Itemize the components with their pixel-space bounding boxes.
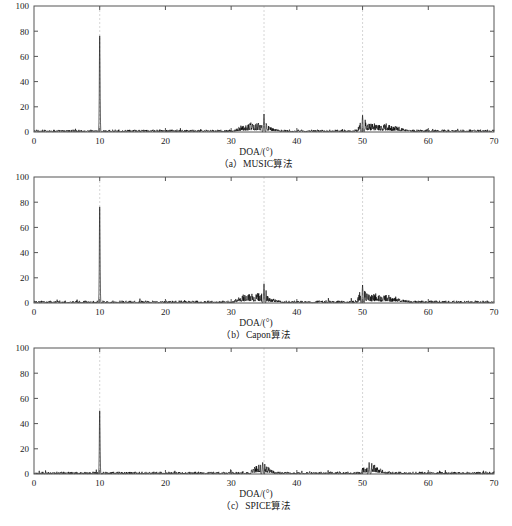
axes-frame [34, 348, 494, 474]
y-tick-label: 60 [20, 223, 30, 233]
y-tick-label: 80 [20, 27, 30, 37]
y-tick-label: 100 [16, 343, 30, 353]
x-tick-label: 10 [95, 478, 105, 488]
x-tick-label: 0 [32, 307, 37, 317]
panel-c-caption: （c）SPICE算法 [0, 500, 512, 513]
y-tick-label: 40 [20, 419, 30, 429]
y-tick-label: 100 [16, 1, 30, 11]
x-tick-label: 20 [161, 307, 171, 317]
panel-a-plot: 010203040506070020406080100 [0, 0, 512, 148]
panel-c-svg: 010203040506070020406080100 [0, 342, 512, 490]
x-tick-label: 70 [490, 478, 500, 488]
x-tick-label: 0 [32, 136, 37, 146]
y-tick-label: 60 [20, 52, 30, 62]
y-tick-label: 0 [25, 298, 30, 308]
x-tick-label: 30 [227, 307, 237, 317]
y-tick-label: 20 [20, 102, 30, 112]
y-tick-label: 40 [20, 248, 30, 258]
panel-a-caption: （a）MUSIC算法 [0, 158, 512, 171]
y-tick-label: 0 [25, 127, 30, 137]
y-tick-label: 80 [20, 198, 30, 208]
figure-page: 010203040506070020406080100 DOA/(°) （a）M… [0, 0, 512, 526]
x-tick-label: 40 [292, 478, 302, 488]
panel-b-caption: （b）Capon算法 [0, 329, 512, 342]
x-tick-label: 50 [358, 136, 368, 146]
y-tick-label: 60 [20, 394, 30, 404]
x-tick-label: 30 [227, 136, 237, 146]
panel-b-svg: 010203040506070020406080100 [0, 171, 512, 319]
y-tick-label: 0 [25, 469, 30, 479]
y-tick-label: 100 [16, 172, 30, 182]
x-tick-label: 70 [490, 307, 500, 317]
x-tick-label: 0 [32, 478, 37, 488]
axes-frame [34, 6, 494, 132]
panel-a-svg: 010203040506070020406080100 [0, 0, 512, 148]
panel-b: 010203040506070020406080100 DOA/(°) （b）C… [0, 171, 512, 342]
y-tick-label: 20 [20, 273, 30, 283]
panel-c: 010203040506070020406080100 DOA/(°) （c）S… [0, 342, 512, 513]
x-tick-label: 30 [227, 478, 237, 488]
y-tick-label: 20 [20, 444, 30, 454]
x-tick-label: 10 [95, 307, 105, 317]
x-tick-label: 60 [424, 307, 434, 317]
y-tick-label: 80 [20, 369, 30, 379]
x-tick-label: 40 [292, 307, 302, 317]
x-tick-label: 50 [358, 478, 368, 488]
x-tick-label: 20 [161, 478, 171, 488]
x-tick-label: 20 [161, 136, 171, 146]
x-tick-label: 50 [358, 307, 368, 317]
x-tick-label: 70 [490, 136, 500, 146]
x-tick-label: 60 [424, 136, 434, 146]
panel-a: 010203040506070020406080100 DOA/(°) （a）M… [0, 0, 512, 171]
y-tick-label: 40 [20, 77, 30, 87]
panel-b-plot: 010203040506070020406080100 [0, 171, 512, 319]
x-tick-label: 40 [292, 136, 302, 146]
x-tick-label: 60 [424, 478, 434, 488]
x-tick-label: 10 [95, 136, 105, 146]
panel-c-plot: 010203040506070020406080100 [0, 342, 512, 490]
